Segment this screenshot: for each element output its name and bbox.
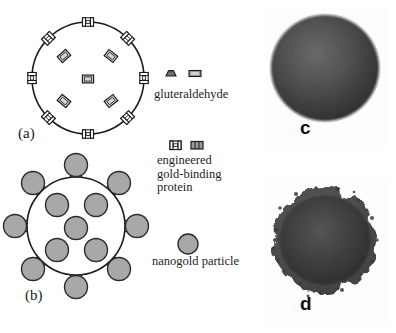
nanogold-bead-e [126,215,149,238]
panel-c-tag: c [300,118,311,137]
nanogold-bead-s [65,276,88,299]
panel-a-schematic [28,18,148,138]
surface-marker-w [28,73,36,84]
interior-marker-center [82,75,93,83]
panel-a-tag: (a) [18,126,35,141]
panel-b-schematic [4,154,149,299]
nanogold-bead-n [65,154,88,177]
gluteraldehyde-bar-icon [189,71,201,77]
interior-nanogold-nw [46,194,69,217]
legend-protein-label: engineered gold-binding protein [157,154,222,195]
panel-d-micrograph: d [262,178,388,326]
protein-bar-icon [191,142,203,150]
protein-h-icon [170,141,181,150]
nanogold-bead-nw [22,172,45,195]
nanogold-bead-sw [22,258,45,281]
nanogold-circle-icon [178,234,198,254]
nanogold-bead-se [108,258,131,281]
nanogold-bead-w [4,215,27,238]
surface-marker-e [140,73,148,84]
panel-c-micrograph: c [262,8,388,148]
legend-nanogold-label: nanogold particle [152,255,239,269]
interior-nanogold-center [65,217,88,240]
nanogold-bead-ne [108,172,131,195]
schematic-diagrams [0,0,270,333]
surface-marker-s [83,130,94,138]
figure-root: (a) (b) gluteraldehyde engineered gold-b… [0,0,396,333]
panel-b-tag: (b) [25,288,43,303]
gluteraldehyde-dome-icon [166,71,176,76]
surface-marker-n [83,18,94,26]
panel-d-tag: d [300,294,312,313]
interior-nanogold-ne [85,194,108,217]
interior-nanogold-se [85,239,108,262]
legend-gluteraldehyde-label: gluteraldehyde [154,88,228,102]
interior-nanogold-sw [46,239,69,262]
